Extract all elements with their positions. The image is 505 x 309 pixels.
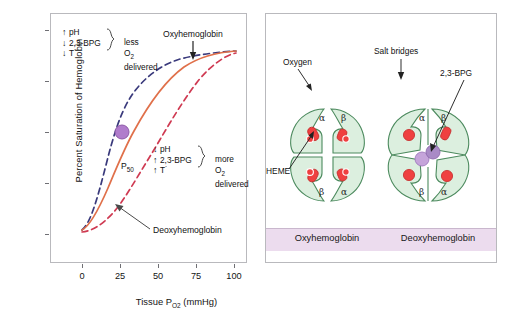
x-tick-mark-50	[158, 264, 159, 268]
annotation-less-o2: ↑pH ↓2,3-BPG ↓T˙ less O2 delivered	[62, 27, 101, 59]
deoxy-label-beta-2: β	[419, 187, 424, 197]
annot-more-bpg: 2,3-BPG	[160, 155, 192, 165]
hemoglobin-diagram: Oxyhemoglobin Deoxyhemoglobin .sub{fill:…	[265, 13, 497, 263]
oxy-o2-ring-top-right	[343, 136, 349, 142]
down-arrow-icon: ↓	[62, 38, 69, 49]
annot-more-temp: T˙	[160, 165, 168, 175]
x-axis-label-main: Tissue P	[136, 296, 172, 307]
deoxy-label-alpha-1: α	[419, 113, 425, 123]
brace-less-o2	[107, 29, 114, 50]
annot-more-result-3: delivered	[215, 179, 249, 190]
deoxy-label-alpha-2: α	[441, 187, 447, 197]
x-tick-mark-75	[196, 264, 197, 268]
oxyhemoglobin-molecule: α β β α	[289, 69, 364, 201]
deoxy-heme-top-left	[403, 129, 414, 140]
y-tick-mark-75	[45, 81, 49, 82]
brace-more-o2	[198, 146, 205, 167]
deoxy-heme-bottom-right	[441, 170, 452, 181]
annot-less-bpg: 2,3-BPG	[69, 38, 101, 48]
x-tick-mark-100	[234, 264, 235, 268]
annot-less-line1: ↑pH	[62, 27, 101, 38]
oxy-label-beta-1: β	[341, 113, 346, 123]
deoxyhemoglobin-arrow	[115, 204, 150, 229]
oxy-subunit-beta-top-right	[331, 109, 364, 153]
annot-more-ph: pH	[160, 144, 171, 154]
p50-subscript: 50	[127, 166, 134, 173]
x-tick-label-50: 50	[138, 271, 178, 281]
x-axis-label: Tissue PO2 (mmHg)	[50, 296, 303, 309]
up-arrow-icon: ↑	[62, 27, 69, 38]
p50-label: P50	[121, 161, 134, 173]
salt-bridges-leader-arrow	[398, 59, 404, 80]
y-tick-mark-0	[45, 234, 49, 235]
p50-marker	[115, 125, 129, 139]
oxy-label-alpha-2: α	[341, 187, 347, 197]
annot-more-result-2: O2	[215, 165, 249, 179]
up-arrow-icon: ↑	[153, 165, 160, 176]
oxyhemoglobin-curve-label: Oxyhemoglobin	[163, 29, 223, 39]
oxy-label-beta-2: β	[319, 187, 324, 197]
annot-less-result-3: delivered	[124, 62, 158, 73]
annotation-more-o2: ↓pH ↑2,3-BPG ↑T˙ more O2 delivered	[153, 144, 192, 176]
annot-less-o-sub: 2	[130, 52, 134, 59]
annot-more-result: more O2 delivered	[215, 154, 249, 189]
oxyhemoglobin-arrow	[190, 41, 196, 60]
annot-more-result-1: more	[215, 154, 249, 165]
deoxyhemoglobin-molecule: α β β α	[388, 59, 469, 201]
annot-less-result: less O2 delivered	[124, 37, 158, 72]
heme-label: HEME	[266, 166, 290, 176]
deoxyhemoglobin-curve-label: Deoxyhemoglobin	[153, 225, 222, 235]
annot-less-result-1: less	[124, 37, 158, 48]
annot-less-result-2: O2	[124, 48, 158, 62]
x-tick-label-75: 75	[176, 271, 216, 281]
down-arrow-icon: ↓	[153, 144, 160, 155]
x-tick-mark-0	[82, 264, 83, 268]
plot-area: Percent Saturation of Hemoglobin 100 75 …	[50, 13, 247, 263]
oxy-label-alpha-1: α	[319, 113, 325, 123]
y-tick-mark-25	[45, 183, 49, 184]
x-tick-mark-25	[120, 264, 121, 268]
annot-more-line2: ↑2,3-BPG	[153, 155, 192, 166]
up-arrow-icon: ↑	[153, 155, 160, 166]
annot-more-o-sub: 2	[221, 169, 225, 176]
annot-less-ph: pH	[69, 27, 80, 37]
deoxy-label-beta-1: β	[441, 113, 446, 123]
annot-more-line3: ↑T˙	[153, 165, 192, 176]
oxygen-leader-arrow	[298, 69, 312, 91]
y-tick-mark-50	[45, 132, 49, 133]
x-tick-label-0: 0	[62, 271, 102, 281]
oxy-o2-ring-bottom-right	[343, 169, 349, 175]
annot-less-line2: ↓2,3-BPG	[62, 38, 101, 49]
curve-right-shifted	[82, 53, 236, 232]
annot-less-temp: T˙	[69, 48, 77, 58]
x-tick-label-25: 25	[100, 271, 140, 281]
y-tick-mark-100	[45, 30, 49, 31]
bpg-label: 2,3-BPG	[440, 68, 472, 78]
x-axis-label-sub-2: 2	[177, 302, 181, 309]
x-tick-label-100: 100	[214, 271, 254, 281]
x-axis-label-units: (mmHg)	[183, 296, 217, 307]
annot-less-line3: ↓T˙	[62, 48, 101, 59]
down-arrow-icon: ↓	[62, 48, 69, 59]
annot-more-line1: ↓pH	[153, 144, 192, 155]
oxy-subunit-alpha-bottom-right	[331, 157, 364, 201]
deoxy-heme-bottom-left	[403, 169, 414, 180]
oxygen-label: Oxygen	[283, 57, 312, 67]
oxy-o2-ring-bottom-left	[307, 169, 314, 176]
salt-bridges-label: Salt bridges	[374, 46, 418, 56]
